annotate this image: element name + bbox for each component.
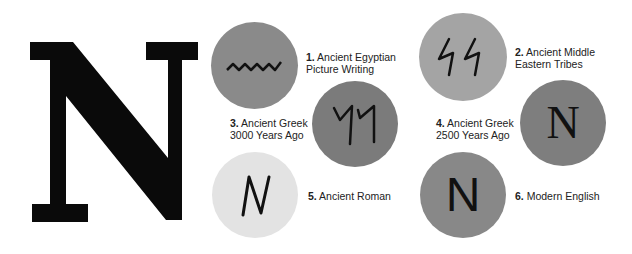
wavy-line-icon (225, 56, 285, 76)
stage-3-line2: 3000 Years Ago (230, 129, 304, 141)
stage-6-number: 6. (515, 190, 524, 202)
stage-4-line1: Ancient Greek (447, 117, 514, 129)
stage-6-line1: Modern English (527, 190, 600, 202)
stage-3-line1: Ancient Greek (241, 117, 308, 129)
stage-6-caption: 6. Modern English (515, 190, 600, 202)
stage-1-line1: Ancient Egyptian (317, 51, 396, 63)
large-letter-n (28, 40, 200, 222)
stage-1-number: 1. (306, 51, 315, 63)
stage-2-caption: 2. Ancient Middle Eastern Tribes (515, 46, 595, 70)
serif-n-icon: N (546, 100, 579, 146)
stage-2-line2: Eastern Tribes (515, 58, 583, 70)
stage-5-line1: Ancient Roman (319, 190, 391, 202)
stage-4-number: 4. (436, 117, 445, 129)
stage-2-line1: Ancient Middle (526, 46, 595, 58)
double-hook-icon (330, 102, 380, 146)
stage-3-caption: 3. Ancient Greek 3000 Years Ago (230, 117, 308, 141)
stage-2-circle (419, 13, 507, 101)
handwritten-n-icon (237, 173, 273, 217)
stage-3-number: 3. (230, 117, 239, 129)
stage-4-caption: 4. Ancient Greek 2500 Years Ago (436, 117, 514, 141)
stage-3-circle (312, 81, 398, 167)
sans-n-icon: N (446, 171, 481, 219)
stage-1-line2: Picture Writing (306, 63, 374, 75)
double-zigzag-icon (435, 37, 491, 77)
stage-5-caption: 5. Ancient Roman (308, 190, 391, 202)
stage-5-circle (212, 152, 298, 238)
stage-2-number: 2. (515, 46, 524, 58)
stage-4-circle: N (520, 80, 606, 166)
stage-1-circle (211, 22, 298, 109)
stage-1-caption: 1. Ancient Egyptian Picture Writing (306, 51, 396, 75)
stage-5-number: 5. (308, 190, 317, 202)
stage-4-line2: 2500 Years Ago (436, 129, 510, 141)
stage-6-circle: N (420, 152, 506, 238)
